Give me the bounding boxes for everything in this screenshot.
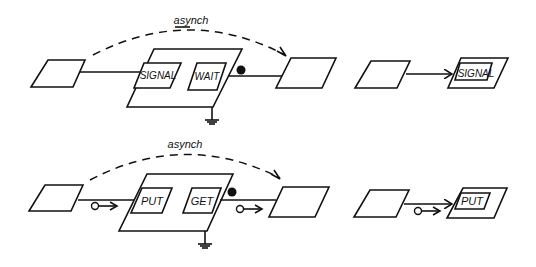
async-arrowhead-top bbox=[277, 47, 286, 56]
bottom-message-icon-right bbox=[237, 205, 263, 213]
bottom-get-label: GET bbox=[191, 195, 215, 207]
async-label-bottom: asynch bbox=[168, 138, 203, 150]
top-signal-label: SIGNAL bbox=[140, 70, 177, 81]
bottom-message-icon-left bbox=[92, 202, 118, 210]
bottom-shorthand-source-box bbox=[354, 190, 409, 217]
top-ground-icon bbox=[205, 120, 219, 124]
top-row: asynch SIGNAL WAIT SIGNAL bbox=[31, 14, 508, 124]
bottom-shorthand-message-icon bbox=[415, 207, 441, 215]
bottom-put-label: PUT bbox=[141, 195, 164, 207]
bottom-left-box bbox=[29, 185, 83, 211]
bottom-row: asynch PUT GET bbox=[29, 138, 507, 248]
bottom-token-dot bbox=[228, 188, 237, 197]
top-wait-label: WAIT bbox=[195, 71, 221, 82]
top-shorthand-signal-label: SIGNAL bbox=[458, 68, 495, 79]
top-left-box bbox=[31, 60, 85, 87]
top-shorthand-source-box bbox=[355, 61, 410, 88]
bottom-right-box bbox=[269, 187, 329, 217]
diagram-canvas: asynch SIGNAL WAIT SIGNAL bbox=[0, 0, 536, 267]
top-token-dot bbox=[237, 66, 246, 75]
async-label-top: asynch bbox=[174, 14, 209, 26]
top-right-box bbox=[276, 58, 336, 88]
bottom-ground-icon bbox=[198, 244, 212, 248]
async-arrowhead-bottom bbox=[271, 170, 280, 179]
bottom-shorthand-put-label: PUT bbox=[461, 195, 484, 207]
